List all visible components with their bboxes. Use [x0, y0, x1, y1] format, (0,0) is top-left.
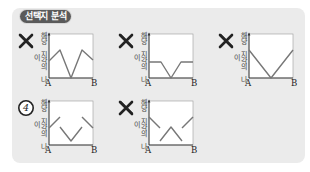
line-plot: [47, 32, 95, 80]
x-axis-label-a: A: [145, 145, 151, 155]
x-axis-label-b: B: [191, 145, 197, 155]
x-axis-label-b: B: [191, 78, 197, 88]
x-axis-label-b: B: [291, 78, 297, 88]
line-plot: [147, 99, 195, 147]
x-axis-label-b: B: [91, 78, 97, 88]
option-graph-1: 해당 지각의 나이AB: [17, 32, 112, 92]
option-graph-3: 해당 지각의 나이AB: [217, 32, 310, 92]
x-axis-label-b: B: [91, 145, 97, 155]
y-axis-label: 해당 지각의 나이: [38, 32, 46, 82]
y-axis-label: 해당 지각의 나이: [138, 99, 146, 149]
x-axis-label-a: A: [145, 78, 151, 88]
option-graph-5: 해당 지각의 나이AB: [117, 99, 212, 159]
y-axis-label: 해당 지각의 나이: [38, 99, 46, 149]
option-graph-2: 해당 지각의 나이AB: [117, 32, 212, 92]
y-axis-label: 해당 지각의 나이: [238, 32, 246, 82]
x-axis-label-a: A: [45, 78, 51, 88]
line-plot: [247, 32, 295, 80]
line-plot: [147, 32, 195, 80]
y-axis-label: 해당 지각의 나이: [138, 32, 146, 82]
option-graph-4: 4해당 지각의 나이AB: [17, 99, 112, 159]
x-mark-icon: [217, 32, 235, 50]
x-mark-icon: [17, 32, 35, 50]
x-axis-label-a: A: [245, 78, 251, 88]
x-mark-icon: [117, 32, 135, 50]
circled-number-icon: 4: [17, 99, 35, 117]
x-axis-label-a: A: [45, 145, 51, 155]
line-plot: [47, 99, 95, 147]
svg-text:4: 4: [22, 102, 29, 113]
x-mark-icon: [117, 99, 135, 117]
section-badge: 선택지 분석: [20, 10, 71, 23]
